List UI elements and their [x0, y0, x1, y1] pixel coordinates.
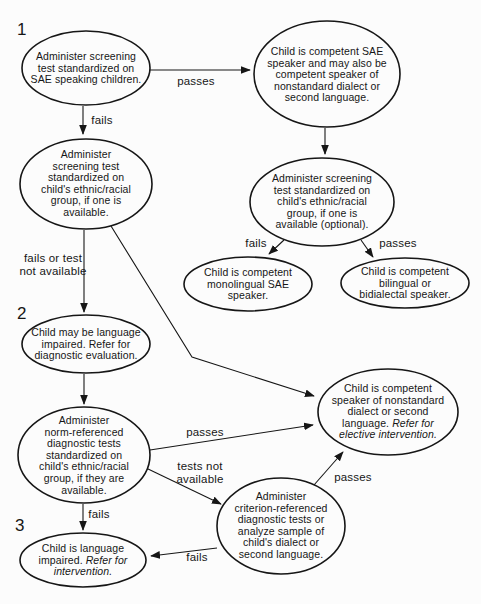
- node-competent-sae-label: Child is competent SAE speaker and may a…: [267, 45, 387, 103]
- edge-norm-to-nonstandard-speaker: [150, 425, 313, 450]
- edge-label-passes-norm: passes: [186, 426, 224, 439]
- node-screen-ethnic-label: Administer screening test standardized o…: [41, 148, 131, 218]
- edge-label-fails-or-test-not-available: fails or test not available: [19, 252, 86, 277]
- node-monolingual-sae: Child is competent monolingual SAE speak…: [173, 267, 323, 302]
- node-criterion-referenced-label: Administer criterion-referenced diagnost…: [234, 490, 327, 560]
- node-norm-referenced: Administer norm-referenced diagnostic te…: [9, 415, 159, 496]
- node-impaired: Child is language impaired. Refer for in…: [8, 543, 158, 578]
- node-screen-sae: Administer screening test standardized o…: [11, 51, 161, 86]
- node-may-be-impaired: Child may be language impaired. Refer fo…: [11, 327, 161, 362]
- edge-label-fails-optional: fails: [245, 237, 266, 250]
- node-bilingual: Child is competent bilingual or bidialec…: [330, 266, 480, 301]
- flowchart: 1 2 3 Administer screening test standard…: [0, 0, 481, 604]
- edge-label-tests-not-available: tests not available: [176, 460, 223, 485]
- section-number-1: 1: [17, 20, 27, 40]
- edge-label-passes-optional: passes: [379, 237, 417, 250]
- edge-label-fails-screen-sae: fails: [91, 114, 112, 127]
- edge-label-passes-criterion: passes: [334, 471, 372, 484]
- edge-screen-ethnic-to-nonstandard-speaker: [111, 226, 314, 396]
- edge-optional-to-bilingual: [361, 240, 373, 257]
- node-screen-sae-label: Administer screening test standardized o…: [31, 50, 142, 85]
- node-nonstandard-speaker: Child is competent speaker of nonstandar…: [313, 383, 463, 441]
- node-competent-sae: Child is competent SAE speaker and may a…: [252, 46, 402, 104]
- node-screen-ethnic: Administer screening test standardized o…: [11, 149, 161, 219]
- edge-optional-to-monolingual: [269, 240, 284, 254]
- section-number-3: 3: [15, 516, 25, 536]
- node-criterion-referenced: Administer criterion-referenced diagnost…: [206, 491, 356, 561]
- node-bilingual-label: Child is competent bilingual or bidialec…: [359, 265, 450, 300]
- node-may-be-impaired-label: Child may be language impaired. Refer fo…: [31, 326, 141, 361]
- edge-label-fails-norm: fails: [88, 508, 109, 521]
- section-number-2: 2: [17, 304, 27, 324]
- edge-label-passes-screen-sae: passes: [177, 75, 215, 88]
- node-monolingual-sae-label: Child is competent monolingual SAE speak…: [204, 266, 292, 301]
- node-screen-ethnic-optional-label: Administer screening test standardized o…: [272, 172, 372, 230]
- node-norm-referenced-label: Administer norm-referenced diagnostic te…: [39, 414, 129, 496]
- edge-label-fails-criterion: fails: [186, 551, 207, 564]
- node-screen-ethnic-optional: Administer screening test standardized o…: [247, 173, 397, 231]
